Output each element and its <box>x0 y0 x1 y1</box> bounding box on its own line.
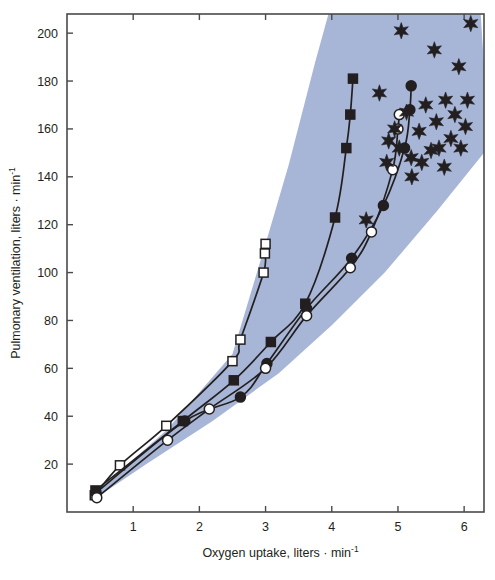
open-circles-marker-4 <box>302 311 312 321</box>
y-tick-label-40: 40 <box>44 410 58 424</box>
open-circles-marker-0 <box>92 493 102 503</box>
y-tick-label-60: 60 <box>44 362 58 376</box>
filled-squares-marker-6 <box>342 144 351 153</box>
y-axis-title-group: Pulmonary ventilation, liters · min-1 <box>7 167 23 359</box>
y-axis-title: Pulmonary ventilation, liters · min-1 <box>7 167 23 359</box>
open-squares-marker-3 <box>228 357 237 366</box>
open-circles-marker-5 <box>345 263 355 273</box>
y-tick-label-80: 80 <box>44 314 58 328</box>
y-tick-label-100: 100 <box>37 266 58 280</box>
open-squares-marker-4 <box>236 335 245 344</box>
filled-squares-marker-5 <box>331 213 340 222</box>
open-squares-marker-5 <box>259 268 268 277</box>
filled-circles-marker-9 <box>406 81 416 91</box>
x-tick-label-1: 1 <box>130 520 137 534</box>
open-circles-marker-2 <box>204 404 214 414</box>
y-tick-label-20: 20 <box>44 458 58 472</box>
open-circles-marker-1 <box>163 435 173 445</box>
y-tick-label-140: 140 <box>37 170 58 184</box>
open-circles-marker-3 <box>261 363 271 373</box>
x-tick-label-6: 6 <box>461 520 468 534</box>
y-tick-label-160: 160 <box>37 122 58 136</box>
x-tick-label-2: 2 <box>196 520 203 534</box>
filled-circles-marker-2 <box>235 392 245 402</box>
open-squares-marker-6 <box>260 249 269 258</box>
open-squares-marker-2 <box>162 421 171 430</box>
filled-squares-marker-3 <box>266 338 275 347</box>
filled-squares-marker-8 <box>348 74 357 83</box>
x-tick-label-4: 4 <box>328 520 335 534</box>
shaded-range-band <box>92 14 484 495</box>
open-squares-marker-7 <box>261 239 270 248</box>
filled-squares-marker-2 <box>229 376 238 385</box>
x-axis-title: Oxygen uptake, liters · min-1 <box>202 544 359 560</box>
filled-squares-marker-7 <box>346 110 355 119</box>
y-tick-label-180: 180 <box>37 75 58 89</box>
y-tick-label-120: 120 <box>37 218 58 232</box>
y-tick-label-200: 200 <box>37 27 58 41</box>
open-circles-marker-6 <box>366 227 376 237</box>
chart-figure: 20406080100120140160180200123456Oxygen u… <box>0 0 495 580</box>
scatter-plot-svg: 20406080100120140160180200123456Oxygen u… <box>0 0 495 580</box>
x-tick-label-3: 3 <box>262 520 269 534</box>
x-tick-label-5: 5 <box>394 520 401 534</box>
